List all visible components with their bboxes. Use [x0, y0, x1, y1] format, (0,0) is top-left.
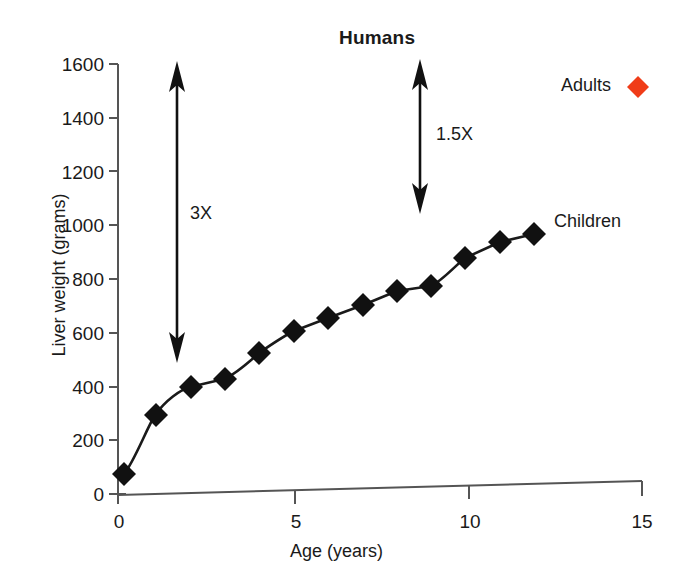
x-axis-spine — [118, 481, 642, 495]
data-line-children — [124, 234, 534, 474]
legend-marker-adults — [627, 76, 649, 98]
chart-figure: Humans Liver weight (grams) Age (years) … — [0, 0, 675, 579]
annotation-arrow-1-5x — [412, 59, 428, 214]
annotation-arrow-3x — [169, 61, 185, 363]
plot-area — [0, 0, 675, 579]
